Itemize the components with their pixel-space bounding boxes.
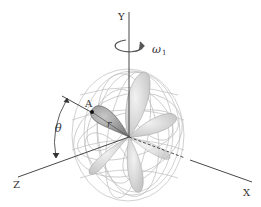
point-a — [90, 110, 94, 114]
omega-label: ω — [152, 43, 161, 56]
omega-subscript: 1 — [162, 49, 166, 57]
radius-label: r — [107, 119, 112, 129]
z-axis-label: Z — [13, 179, 20, 190]
x-axis-label: X — [243, 187, 251, 198]
rotation-arrow-icon — [115, 40, 144, 52]
theta-label: θ — [55, 122, 62, 135]
x-axis — [190, 160, 252, 182]
y-axis-label: Y — [117, 11, 125, 22]
antenna-radiation-diagram: Y Z X ω 1 A r θ — [0, 0, 261, 207]
point-a-label: A — [84, 98, 93, 109]
